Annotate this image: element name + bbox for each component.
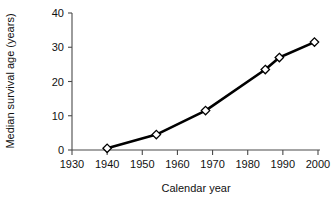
x-axis-title: Calendar year bbox=[161, 182, 230, 194]
x-tick-label: 1930 bbox=[60, 158, 84, 170]
x-tick-label: 1990 bbox=[271, 158, 295, 170]
y-tick-label: 30 bbox=[52, 41, 64, 53]
x-tick-label: 1980 bbox=[235, 158, 259, 170]
chart-container: 010203040 193019401950196019701980199020… bbox=[0, 0, 335, 198]
y-tick-label: 20 bbox=[52, 76, 64, 88]
x-tick-label: 1940 bbox=[95, 158, 119, 170]
y-tick-label: 0 bbox=[58, 144, 64, 156]
x-tick-label: 1960 bbox=[165, 158, 189, 170]
x-tick-label: 1950 bbox=[130, 158, 154, 170]
y-axis-title: Median survival age (years) bbox=[4, 13, 16, 148]
x-tick-label: 1970 bbox=[200, 158, 224, 170]
y-tick-label: 40 bbox=[52, 7, 64, 19]
x-tick-label: 2000 bbox=[306, 158, 330, 170]
y-tick-label: 10 bbox=[52, 110, 64, 122]
line-chart: 010203040 193019401950196019701980199020… bbox=[0, 0, 335, 198]
